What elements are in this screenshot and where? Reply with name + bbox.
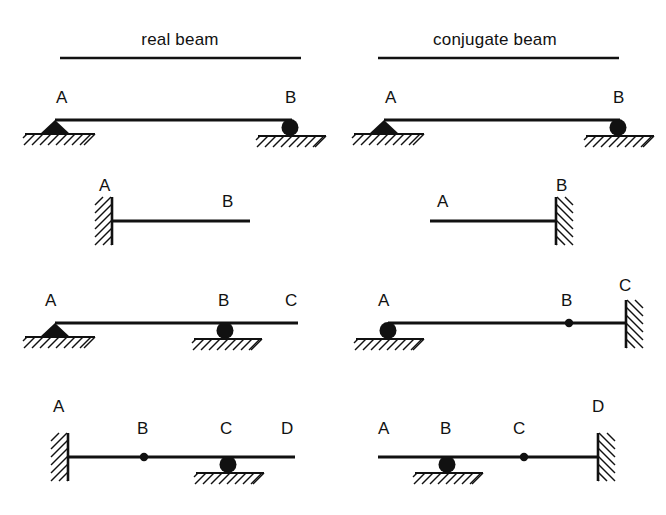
node-label-row-2-conjugate-1: B (556, 176, 567, 195)
support-row-2-real-0-fixed-wall-hatch (95, 220, 112, 237)
node-label-row-4-conjugate-0: A (378, 419, 390, 438)
support-row-4-conjugate-3-fixed-wall-hatch (599, 433, 615, 449)
support-row-3-conjugate-2-fixed-wall-hatch (635, 300, 643, 308)
support-row-4-conjugate-3-fixed-wall-hatch (598, 440, 615, 457)
support-row-3-conjugate-2-fixed-wall-hatch (626, 339, 635, 348)
support-row-3-conjugate-2-fixed-wall-hatch (626, 315, 643, 332)
node-label-row-2-real-1: B (222, 192, 233, 211)
support-row-4-real-0-fixed-wall-hatch (51, 433, 59, 441)
support-row-4-conjugate-2-internal-hinge (520, 453, 528, 461)
beam-row-1-real: AB (23, 88, 326, 147)
support-row-3-conjugate-2-fixed-wall-hatch (626, 307, 643, 324)
support-row-3-conjugate-0-roller-ground-hatch (413, 339, 424, 350)
support-row-3-conjugate-0-roller-support (380, 322, 397, 339)
support-row-4-real-2-roller-ground-hatch (253, 473, 264, 484)
support-row-4-real-0-fixed-wall-hatch (51, 456, 68, 473)
node-label-row-4-conjugate-2: C (513, 419, 525, 438)
support-row-4-conjugate-3-fixed-wall-hatch (598, 464, 615, 481)
support-row-3-real-1-roller-support (217, 322, 234, 339)
node-label-row-4-conjugate-3: D (592, 397, 604, 416)
support-row-1-real-0-pin-support (40, 120, 70, 134)
node-label-row-2-conjugate-0: A (437, 192, 449, 211)
node-label-row-3-conjugate-2: C (619, 276, 631, 295)
support-row-4-conjugate-1-roller-support (439, 456, 456, 473)
support-row-2-real-0-fixed-wall-hatch (95, 228, 112, 245)
support-row-3-conjugate-1-internal-hinge (565, 319, 573, 327)
support-row-3-conjugate-2-fixed-wall-hatch (626, 323, 643, 340)
support-row-2-conjugate-1-fixed-wall-hatch (556, 228, 573, 245)
beam-row-2-conjugate: AB (430, 176, 573, 245)
support-row-1-conjugate-0-pin-support (369, 120, 399, 134)
support-row-1-conjugate-1-roller-support (610, 119, 627, 136)
beam-row-2-real: AB (95, 176, 250, 245)
column-title-real-beam: real beam (80, 30, 280, 50)
support-row-4-conjugate-3-fixed-wall-hatch (598, 480, 599, 481)
beam-row-4-conjugate: ABCD (378, 397, 615, 484)
node-label-row-3-real-0: A (45, 291, 57, 310)
support-row-4-real-2-roller-support (220, 456, 237, 473)
support-row-2-real-0-fixed-wall-hatch (95, 197, 103, 205)
node-label-row-4-real-2: C (220, 419, 232, 438)
support-row-1-conjugate-1-roller-ground-hatch (643, 136, 654, 147)
support-row-3-real-0-pin-support (40, 323, 70, 337)
support-row-2-conjugate-1-fixed-wall-hatch (556, 244, 557, 245)
support-row-2-real-0-fixed-wall-hatch (111, 244, 112, 245)
node-label-row-3-real-2: C (285, 291, 297, 310)
support-row-2-conjugate-1-fixed-wall-hatch (565, 197, 573, 205)
support-row-2-real-0-fixed-wall-hatch (95, 204, 112, 221)
support-row-4-real-0-fixed-wall-hatch (51, 433, 67, 449)
support-row-4-conjugate-3-fixed-wall-hatch (598, 456, 615, 473)
support-row-1-real-1-roller-support (282, 119, 299, 136)
support-row-2-conjugate-1-fixed-wall-hatch (556, 236, 565, 245)
support-row-4-real-0-fixed-wall-hatch (51, 464, 68, 481)
beam-row-1-conjugate: AB (352, 88, 654, 147)
beam-row-3-real: ABC (23, 291, 298, 350)
support-row-3-real-1-roller-ground-hatch (251, 339, 262, 350)
node-label-row-4-real-3: D (281, 419, 293, 438)
node-label-row-4-real-0: A (53, 397, 65, 416)
support-row-2-real-0-fixed-wall-hatch (103, 236, 112, 245)
support-row-4-real-0-fixed-wall-hatch (67, 480, 68, 481)
node-label-row-2-real-0: A (99, 176, 111, 195)
node-label-row-1-conjugate-1: B (613, 88, 624, 107)
node-label-row-3-conjugate-0: A (378, 291, 390, 310)
column-title-conjugate-beam: conjugate beam (395, 30, 595, 50)
support-row-3-conjugate-2-fixed-wall-hatch (626, 331, 643, 348)
support-row-2-conjugate-1-fixed-wall-hatch (556, 212, 573, 229)
support-row-2-conjugate-1-fixed-wall-hatch (557, 197, 573, 213)
node-label-row-3-conjugate-1: B (561, 291, 572, 310)
support-row-4-conjugate-3-fixed-wall-hatch (598, 472, 607, 481)
support-row-2-conjugate-1-fixed-wall-hatch (556, 220, 573, 237)
support-row-2-real-0-fixed-wall-hatch (95, 212, 112, 229)
node-label-row-1-real-0: A (56, 88, 68, 107)
support-row-4-conjugate-3-fixed-wall-hatch (607, 433, 615, 441)
support-row-1-real-1-roller-ground-hatch (315, 136, 326, 147)
node-label-row-4-conjugate-1: B (440, 419, 451, 438)
support-row-3-conjugate-2-fixed-wall-hatch (627, 300, 643, 316)
node-label-row-1-conjugate-0: A (385, 88, 397, 107)
node-label-row-3-real-1: B (218, 291, 229, 310)
node-label-row-1-real-1: B (285, 88, 296, 107)
support-row-4-real-0-fixed-wall-hatch (51, 440, 68, 457)
beam-row-3-conjugate: ABC (354, 276, 643, 350)
support-row-4-conjugate-1-roller-ground-hatch (472, 473, 483, 484)
support-row-2-conjugate-1-fixed-wall-hatch (556, 204, 573, 221)
beam-diagrams-canvas: ABABABABABCABCABCDABCD (0, 0, 666, 515)
support-row-4-real-0-fixed-wall-hatch (59, 472, 68, 481)
conjugate-beam-figure: real beam conjugate beam ABABABABABCABCA… (0, 0, 666, 515)
support-row-3-conjugate-2-fixed-wall-hatch (626, 347, 627, 348)
node-label-row-4-real-1: B (137, 419, 148, 438)
support-row-4-conjugate-3-fixed-wall-hatch (598, 448, 615, 465)
support-row-2-real-0-fixed-wall-hatch (95, 197, 111, 213)
support-row-4-real-1-internal-hinge (140, 453, 148, 461)
support-row-4-real-0-fixed-wall-hatch (51, 448, 68, 465)
beam-row-4-real: ABCD (51, 397, 295, 484)
